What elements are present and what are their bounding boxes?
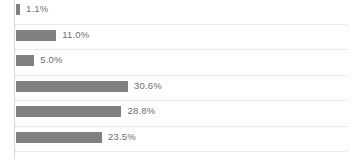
- bar-chart: 1.1%11.0%5.0%30.6%28.8%23.5%: [0, 0, 357, 168]
- bar[interactable]: [16, 30, 56, 41]
- gridline: [15, 151, 348, 153]
- bar[interactable]: [16, 132, 102, 143]
- bar-row: 28.8%: [0, 102, 357, 128]
- bar-row: 23.5%: [0, 128, 357, 154]
- bar-value-label: 28.8%: [127, 104, 155, 118]
- bar-row: 1.1%: [0, 0, 357, 26]
- bar[interactable]: [16, 4, 20, 15]
- bar-row: 11.0%: [0, 26, 357, 52]
- bar-value-label: 5.0%: [40, 53, 62, 67]
- bar-value-label: 23.5%: [108, 130, 136, 144]
- bar[interactable]: [16, 55, 34, 66]
- plot-area: 1.1%11.0%5.0%30.6%28.8%23.5%: [0, 0, 357, 168]
- bar-row: 30.6%: [0, 77, 357, 103]
- bar-value-label: 30.6%: [134, 79, 162, 93]
- bar[interactable]: [16, 106, 121, 117]
- bar[interactable]: [16, 81, 128, 92]
- bar-row: 5.0%: [0, 51, 357, 77]
- bar-value-label: 1.1%: [26, 2, 48, 16]
- bar-value-label: 11.0%: [62, 28, 89, 42]
